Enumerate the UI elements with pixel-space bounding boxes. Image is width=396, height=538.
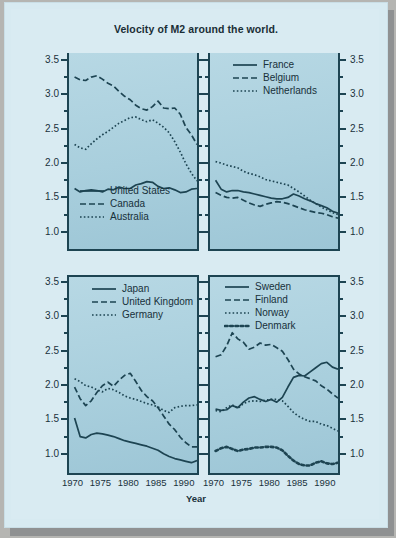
y-tick-major [202, 196, 210, 198]
y-tick-label: 1.5 [29, 413, 59, 424]
legend-key-icon [79, 212, 105, 222]
y-tick-label: 2.5 [350, 123, 380, 134]
y-tick-label: 3.5 [29, 276, 59, 287]
y-tick-major [61, 418, 69, 420]
y-tick-major [61, 315, 69, 317]
legend-key-icon [232, 60, 258, 70]
panel-grid: United StatesCanadaAustralia3.53.02.52.0… [5, 45, 387, 515]
y-tick-minor [64, 436, 69, 438]
legend-key-icon [232, 86, 258, 96]
y-tick-major [338, 384, 346, 386]
y-tick-minor [64, 298, 69, 300]
y-tick-minor [64, 76, 69, 78]
y-tick-minor [338, 367, 343, 369]
legend-key-icon [79, 199, 105, 209]
panel-japan-uk-germany-plot-area: JapanUnited KingdomGermany [67, 275, 199, 475]
y-tick-minor [205, 214, 210, 216]
legend-key-icon [232, 73, 258, 83]
y-tick-label: 2.5 [350, 345, 380, 356]
y-tick-label: 1.0 [350, 226, 380, 237]
y-tick-minor [338, 332, 343, 334]
y-tick-major [61, 59, 69, 61]
y-tick-major [61, 350, 69, 352]
legend-label: Japan [122, 283, 149, 295]
y-tick-major [61, 162, 69, 164]
y-tick-major [202, 128, 210, 130]
y-tick-major [338, 315, 346, 317]
x-axis-title: Year [5, 493, 387, 504]
y-tick-minor [197, 76, 202, 78]
legend-key-icon [224, 321, 250, 331]
figure-card: Velocity of M2 around the world. United … [4, 2, 388, 528]
legend-label: Norway [255, 307, 289, 319]
legend-label: Australia [110, 211, 149, 223]
series-line-sweden [216, 362, 338, 410]
series-line-denmark [216, 447, 338, 466]
y-tick-minor [205, 367, 210, 369]
series-line-australia [75, 117, 197, 181]
y-tick-major [61, 453, 69, 455]
y-tick-major [61, 384, 69, 386]
y-tick-major [61, 196, 69, 198]
y-tick-label: 2.5 [29, 345, 59, 356]
y-tick-major [61, 128, 69, 130]
series-line-netherlands [216, 162, 338, 215]
y-tick-label: 2.0 [350, 379, 380, 390]
legend-key-icon [91, 284, 117, 294]
legend-key-icon [224, 308, 250, 318]
legend-label: United Kingdom [122, 296, 193, 308]
legend-label: United States [110, 185, 170, 197]
legend-item-finland: Finland [224, 294, 296, 306]
panel-western-europe-legend: FranceBelgiumNetherlands [232, 59, 317, 98]
y-tick-minor [64, 179, 69, 181]
y-tick-minor [64, 332, 69, 334]
y-tick-major [338, 128, 346, 130]
y-tick-minor [64, 110, 69, 112]
y-tick-major [202, 418, 210, 420]
legend-item-belgium: Belgium [232, 72, 317, 84]
y-tick-major [338, 93, 346, 95]
series-line-norway [216, 399, 338, 431]
legend-item-germany: Germany [91, 309, 193, 321]
panel-north-america-australia-legend: United StatesCanadaAustralia [79, 185, 170, 224]
legend-key-icon [224, 282, 250, 292]
y-tick-label: 3.5 [350, 276, 380, 287]
series-line-germany [75, 379, 197, 413]
panel-nordics-plot-area: SwedenFinlandNorwayDenmark [208, 275, 340, 475]
y-tick-minor [197, 401, 202, 403]
y-tick-major [202, 281, 210, 283]
legend-item-canada: Canada [79, 198, 170, 210]
legend-item-united-states: United States [79, 185, 170, 197]
y-tick-major [202, 93, 210, 95]
legend-item-norway: Norway [224, 307, 296, 319]
y-tick-major [202, 315, 210, 317]
y-tick-major [338, 453, 346, 455]
y-tick-label: 2.0 [350, 157, 380, 168]
legend-key-icon [91, 297, 117, 307]
panel-japan-uk-germany-legend: JapanUnited KingdomGermany [91, 283, 193, 322]
y-tick-major [338, 59, 346, 61]
y-tick-major [202, 59, 210, 61]
y-tick-major [202, 350, 210, 352]
y-tick-major [202, 231, 210, 233]
y-tick-minor [205, 110, 210, 112]
legend-key-icon [224, 295, 250, 305]
screenshot-page: Velocity of M2 around the world. United … [0, 0, 396, 538]
panel-nordics-legend: SwedenFinlandNorwayDenmark [224, 281, 296, 333]
y-tick-label: 2.0 [29, 157, 59, 168]
series-line-japan [75, 418, 197, 463]
y-tick-label: 1.5 [350, 191, 380, 202]
y-tick-minor [205, 298, 210, 300]
y-tick-minor [197, 110, 202, 112]
y-tick-label: 3.5 [350, 54, 380, 65]
y-tick-label: 2.0 [29, 379, 59, 390]
legend-label: Netherlands [263, 85, 317, 97]
panel-western-europe-plot-area: FranceBelgiumNetherlands [208, 53, 340, 251]
y-tick-major [202, 384, 210, 386]
legend-label: Germany [122, 309, 163, 321]
y-tick-label: 3.0 [29, 310, 59, 321]
y-tick-label: 1.0 [29, 448, 59, 459]
series-line-canada [75, 76, 197, 145]
y-tick-major [202, 162, 210, 164]
y-tick-label: 1.0 [29, 226, 59, 237]
